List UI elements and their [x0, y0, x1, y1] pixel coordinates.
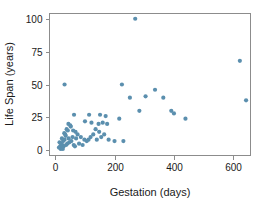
data-point	[121, 139, 125, 143]
y-tick-label: 25	[31, 112, 43, 123]
data-point	[105, 122, 109, 126]
data-point	[153, 88, 157, 92]
y-axis-ticks: 0255075100	[26, 14, 50, 156]
y-axis-title: Life Span (years)	[3, 42, 15, 126]
data-point	[94, 127, 98, 131]
data-point	[64, 134, 68, 138]
data-point	[87, 113, 91, 117]
data-point	[98, 113, 102, 117]
data-point	[57, 146, 61, 150]
data-point	[61, 147, 65, 151]
x-tick-label: 200	[107, 162, 124, 173]
x-tick-label: 400	[166, 162, 183, 173]
chart-canvas: 0255075100 0200400600 Gestation (days) L…	[0, 0, 262, 205]
data-point	[81, 143, 85, 147]
data-point	[96, 122, 100, 126]
data-point	[112, 139, 116, 143]
data-point	[117, 117, 121, 121]
data-point	[89, 121, 93, 125]
data-point	[172, 111, 176, 115]
data-point	[161, 96, 165, 100]
data-point	[120, 82, 124, 86]
data-point	[183, 117, 187, 121]
data-point	[62, 82, 66, 86]
data-point	[75, 132, 79, 136]
x-tick-label: 600	[225, 162, 242, 173]
data-point	[79, 135, 83, 139]
data-point	[143, 94, 147, 98]
y-tick-label: 75	[31, 47, 43, 58]
y-tick-label: 100	[26, 14, 43, 25]
data-point	[57, 140, 61, 144]
data-point	[60, 136, 64, 140]
x-axis-title: Gestation (days)	[110, 186, 191, 198]
data-point	[95, 138, 99, 142]
data-point	[244, 98, 248, 102]
data-point	[107, 138, 111, 142]
data-point	[238, 59, 242, 63]
data-point	[66, 128, 70, 132]
data-point	[70, 135, 74, 139]
data-point	[82, 138, 86, 142]
y-tick-label: 0	[37, 145, 43, 156]
data-point	[137, 109, 141, 113]
data-point	[72, 113, 76, 117]
data-point	[99, 135, 103, 139]
x-tick-label: 0	[53, 162, 59, 173]
data-point	[73, 144, 77, 148]
scatter-plot-figure: 0255075100 0200400600 Gestation (days) L…	[0, 0, 262, 205]
data-point	[101, 121, 105, 125]
data-point	[128, 96, 132, 100]
data-point	[69, 124, 73, 128]
data-point	[133, 17, 137, 21]
data-point	[83, 119, 87, 123]
y-tick-label: 50	[31, 80, 43, 91]
data-point	[104, 114, 108, 118]
data-points-layer	[57, 17, 248, 151]
x-axis-ticks: 0200400600	[53, 156, 243, 173]
data-point	[97, 130, 101, 134]
